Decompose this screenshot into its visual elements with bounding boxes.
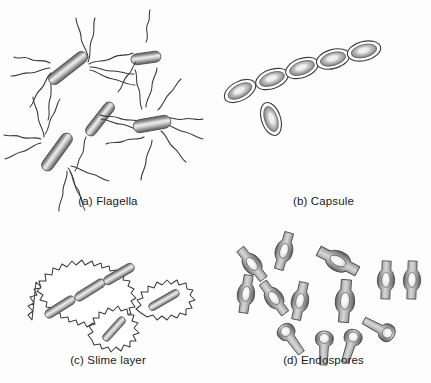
capsule-cell-2 [283,53,321,82]
panel-capsule: (b) Capsule [216,6,431,218]
endospore-central-9 [403,261,422,300]
caption-capsule: (b) Capsule [216,195,431,207]
capsule-cell-3 [314,45,352,73]
cell-center-diagonal [75,100,117,171]
endospore-central-2 [270,230,297,271]
cell-peritrichous-right [100,68,203,180]
cell-body-lower-left [39,131,75,174]
cell-body-upper-left [46,49,90,87]
endospore-terminal-1 [274,320,309,358]
endospore-central-8 [377,261,396,300]
capsule-cell-1 [253,64,291,93]
panel-endospores: (d) Endospores [216,218,431,383]
flagella-illustration [0,6,216,218]
endospore-central-group [233,230,421,323]
capsule-cell-4 [345,38,383,65]
flagellum-fragment-upper [118,62,136,92]
bacterial-structures-figure: (a) Flagella [0,0,431,383]
endospore-terminal-4 [360,313,398,345]
caption-endospores: (d) Endospores [216,354,431,366]
panel-flagella: (a) Flagella [0,6,216,218]
endospore-central-4 [256,278,292,319]
endospore-central-5 [288,281,313,322]
flagellum-single [146,10,150,42]
panel-slime-layer: (c) Slime layer [0,218,216,383]
capsule-cell-solitary-lower [257,100,286,138]
flagellum-center-lower [75,137,86,171]
caption-slime-layer: (c) Slime layer [0,354,216,366]
cell-amphitrichous-lower-left [4,97,109,211]
capsule-chain [253,38,383,94]
cell-body-peritrichous [132,114,172,133]
endospore-central-7 [334,279,356,323]
cell-amphitrichous-upper-left [11,18,135,120]
endospore-central-3 [235,274,257,314]
endospore-central-6 [314,242,362,280]
capsule-cell-solitary-left [221,75,260,108]
caption-flagella: (a) Flagella [0,195,216,207]
cell-body-center [83,100,116,138]
cell-monotrichous-top-right [130,10,161,66]
slime-group-right [136,280,195,320]
capsule-illustration [216,6,431,218]
